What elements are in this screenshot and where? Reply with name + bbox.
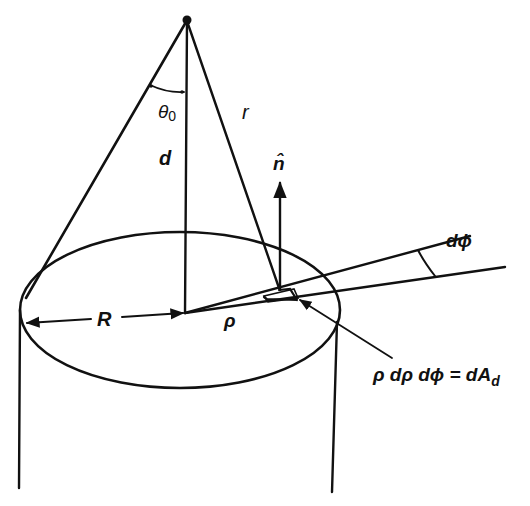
dphi-arc bbox=[418, 250, 435, 276]
label-area-element: ρ dρ dϕ = dAd bbox=[372, 364, 500, 389]
radius-R-arrow-left bbox=[27, 319, 91, 323]
label-r: r bbox=[242, 101, 250, 123]
theta0-arc-end-right bbox=[180, 90, 184, 94]
disk-ellipse bbox=[20, 232, 340, 388]
theta0-arc-end-left bbox=[149, 84, 153, 88]
cylinder-left-side bbox=[19, 310, 20, 488]
line-r bbox=[188, 24, 279, 288]
label-dphi: dϕ bbox=[446, 230, 472, 251]
axis-d bbox=[185, 22, 187, 313]
label-rho: ρ bbox=[223, 310, 236, 331]
label-n-hat: n̂ bbox=[273, 153, 285, 174]
wedge-ray-upper bbox=[185, 236, 470, 313]
theta0-arc bbox=[150, 85, 184, 92]
cylinder-right-side bbox=[332, 322, 337, 492]
label-d: d bbox=[159, 147, 172, 169]
label-R: R bbox=[97, 308, 112, 330]
label-theta0: θ0 bbox=[158, 101, 176, 124]
disk-source-diagram: θ0 d r n̂ R ρ dϕ ρ dρ dϕ = dAd bbox=[0, 0, 530, 506]
area-element-leader bbox=[300, 300, 392, 358]
radius-R-arrow-right bbox=[122, 313, 183, 317]
wedge-ray-lower bbox=[185, 267, 505, 313]
